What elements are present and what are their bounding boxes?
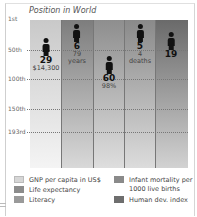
person-icon — [166, 32, 176, 50]
legend-swatch — [14, 186, 24, 193]
legend-item-life-expectancy: Life expectancy — [14, 186, 80, 194]
person-icon — [135, 24, 145, 42]
legend-swatch — [14, 196, 24, 203]
legend-item-literacy: Literacy — [14, 196, 55, 204]
marker-life-expectancy: 6 79 years — [68, 24, 86, 65]
gridline — [27, 132, 188, 133]
person-icon — [104, 56, 114, 74]
gridline — [27, 109, 188, 110]
legend-swatch — [114, 176, 124, 183]
divider — [0, 203, 6, 204]
marker-gnp: 29 $14,300 — [33, 38, 60, 72]
y-tick: 1st — [8, 15, 28, 22]
legend-swatch — [14, 176, 24, 183]
person-icon — [72, 24, 82, 42]
y-tick: 150th — [8, 105, 28, 112]
legend-item-gnp: GNP per capita in US$ — [14, 176, 101, 184]
y-tick: 100th — [8, 75, 28, 82]
column-literacy — [94, 20, 125, 168]
divider — [0, 206, 6, 207]
legend-item-infant-mortality: Infant mortality per1000 live births — [114, 176, 192, 194]
legend-swatch — [114, 196, 124, 203]
marker-infant-mortality: 5 4 deaths — [129, 24, 151, 65]
marker-literacy: 60 98% — [102, 56, 116, 90]
y-tick: 50th — [8, 46, 28, 53]
marker-hdi: 19 — [165, 32, 178, 59]
y-tick: 193rd — [8, 128, 28, 135]
legend-item-hdi: Human dev. index — [114, 196, 188, 204]
person-icon — [41, 38, 51, 56]
chart-title: Position in World — [29, 6, 96, 15]
